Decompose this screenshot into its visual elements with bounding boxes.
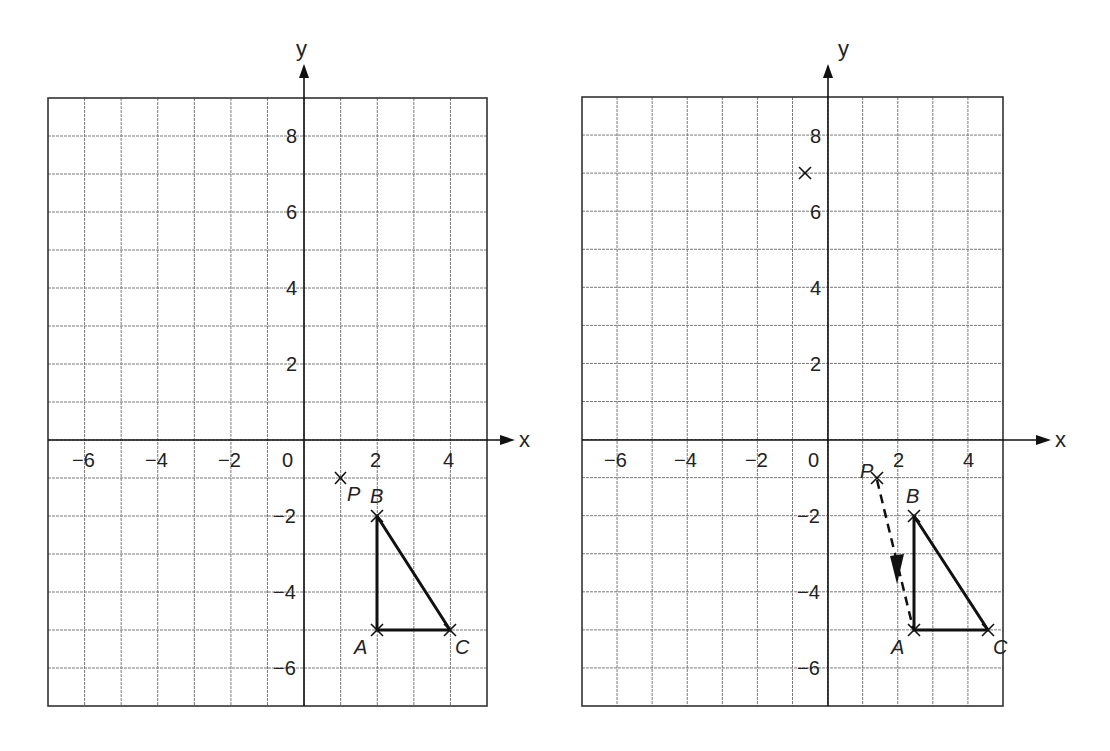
right-y-axis-arrow-icon: [823, 64, 833, 78]
left-y-axis-label: y: [296, 36, 307, 61]
right-x-tick: 2: [893, 449, 904, 471]
right-triangle-abc: [914, 516, 988, 630]
right-y-tick: 4: [810, 277, 821, 299]
left-point-c-label: C: [455, 636, 470, 658]
right-x-tick: 4: [963, 449, 974, 471]
left-coordinate-grid: y x −6 −4 −2 0 2 4 8 6 4 2 −2 −4 −6 P B: [48, 36, 530, 706]
left-y-tick: −2: [273, 505, 296, 527]
right-y-tick: −6: [797, 657, 820, 679]
right-y-tick: 2: [810, 353, 821, 375]
right-vector-arrow-icon: [890, 554, 904, 584]
left-x-tick: −2: [218, 449, 241, 471]
right-point-b-label: B: [906, 485, 919, 507]
left-x-tick: −6: [72, 449, 95, 471]
right-point-a-label: A: [890, 636, 904, 658]
left-x-axis-label: x: [519, 427, 530, 452]
left-x-axis-arrow-icon: [500, 435, 515, 445]
left-y-tick: 6: [286, 201, 297, 223]
right-point-p-label: P: [860, 460, 874, 482]
left-y-tick: 2: [286, 353, 297, 375]
right-y-tick: 8: [810, 125, 821, 147]
right-y-tick: −4: [797, 581, 820, 603]
right-x-tick: −2: [745, 449, 768, 471]
left-point-a-label: A: [353, 636, 367, 658]
right-coordinate-grid: y x −6 −4 −2 0 2 4 8 6 4 2 −2 −4 −6: [582, 36, 1066, 706]
left-y-tick: 4: [286, 277, 297, 299]
left-y-tick: 8: [286, 125, 297, 147]
left-y-axis-arrow-icon: [299, 64, 309, 78]
right-point-c-label: C: [993, 636, 1008, 658]
left-grid-lines: [48, 98, 487, 706]
right-y-tick: −2: [797, 505, 820, 527]
left-x-tick: −4: [145, 449, 168, 471]
left-point-p-label: P: [347, 483, 361, 505]
right-x-tick: −6: [604, 449, 627, 471]
right-x-axis-arrow-icon: [1036, 435, 1051, 445]
diagram-canvas: y x −6 −4 −2 0 2 4 8 6 4 2 −2 −4 −6 P B: [0, 0, 1110, 751]
right-x-tick: 0: [808, 449, 819, 471]
right-y-axis-label: y: [838, 36, 849, 61]
left-x-tick: 2: [370, 449, 381, 471]
right-x-tick: −4: [674, 449, 697, 471]
left-point-b-label: B: [370, 485, 383, 507]
left-y-tick: −4: [273, 581, 296, 603]
left-x-tick: 0: [282, 449, 293, 471]
left-x-tick: 4: [443, 449, 454, 471]
right-grid-lines: [582, 97, 1003, 706]
left-y-tick: −6: [273, 657, 296, 679]
right-y-tick: 6: [810, 201, 821, 223]
right-x-axis-label: x: [1055, 427, 1066, 452]
